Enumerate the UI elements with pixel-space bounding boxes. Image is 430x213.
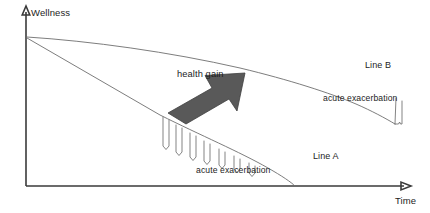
health-gain-label: health gain: [177, 70, 224, 79]
line-a-label: Line A: [313, 152, 339, 161]
acute-exacerbation-label-lower: acute exacerbation: [196, 166, 270, 175]
time-axis-label: Time: [395, 196, 416, 206]
acute-exacerbation-label-upper: acute exacerbation: [323, 94, 397, 103]
line-b-label: Line B: [365, 61, 391, 70]
wellness-axis: [22, 6, 30, 186]
diagram-canvas: Wellness Time health gain Line B Line A …: [0, 0, 430, 213]
line-a-curve: [27, 38, 295, 186]
health-gain-arrow: [168, 73, 245, 124]
wellness-time-diagram: [0, 0, 430, 213]
wellness-axis-label: Wellness: [31, 8, 70, 18]
time-axis: [26, 182, 411, 190]
